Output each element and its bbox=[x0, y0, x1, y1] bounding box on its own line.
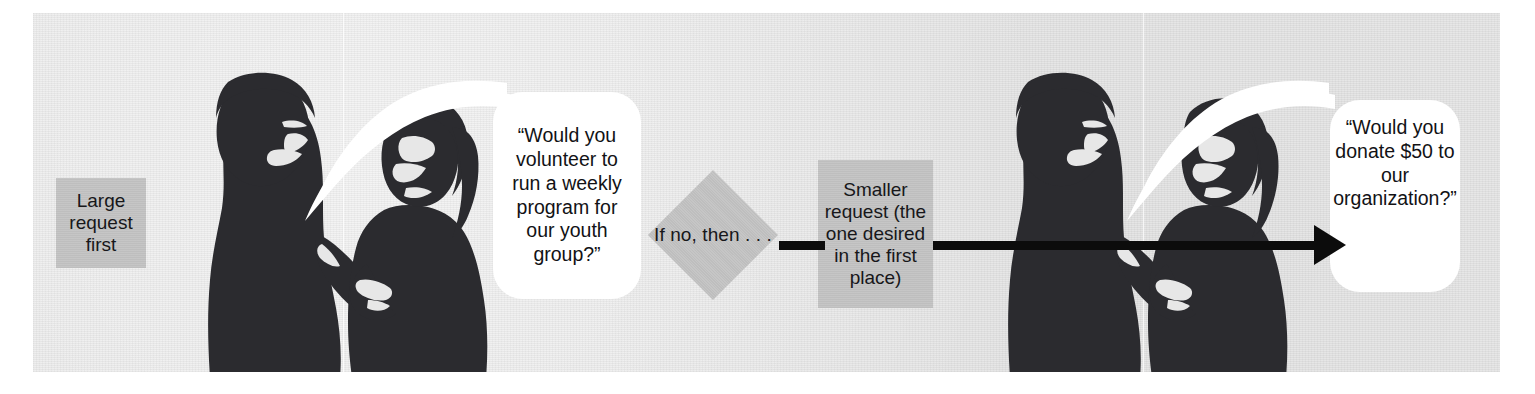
box-large-request-first: Large request first bbox=[56, 178, 146, 268]
box-smaller-request: Smaller request (the one desired in the … bbox=[818, 160, 933, 308]
illustration-panel: “Would you volunteer to run a weekly pro… bbox=[33, 13, 1500, 372]
decision-diamond-label: If no, then . . . bbox=[648, 170, 778, 300]
decision-diamond: If no, then . . . bbox=[648, 170, 778, 300]
speech-tail-one bbox=[301, 73, 521, 223]
speech-balloon-second-request: “Would you donate $50 to our organizatio… bbox=[1330, 100, 1460, 292]
arrow-shaft-to-second-request bbox=[933, 241, 1318, 250]
speech-balloon-first-request: “Would you volunteer to run a weekly pro… bbox=[493, 92, 641, 299]
speech-tail-two bbox=[1113, 73, 1343, 223]
door-in-the-face-figure: “Would you volunteer to run a weekly pro… bbox=[0, 0, 1535, 394]
connector-decision-to-box bbox=[779, 241, 825, 250]
arrow-head-to-second-request bbox=[1314, 225, 1346, 265]
